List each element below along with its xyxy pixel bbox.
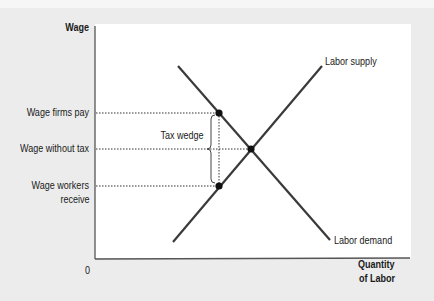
tick-wage-without-tax-text: Wage without tax <box>20 142 89 154</box>
tick-wage-firms-pay-text: Wage firms pay <box>27 106 89 118</box>
labor-demand-label: Labor demand <box>334 234 392 246</box>
tick-wage-workers-receive-line1: Wage workers <box>32 179 89 191</box>
labor-supply-label: Labor supply <box>325 55 377 67</box>
tax-wedge-label: Tax wedge <box>161 129 204 141</box>
y-axis-title-text: Wage <box>65 21 89 33</box>
x-axis-title-line2: of Labor <box>359 272 395 284</box>
tick-wage-workers-receive-line2: receive <box>60 193 89 205</box>
workers-receive-point <box>215 182 222 189</box>
origin-label: 0 <box>85 264 90 276</box>
x-axis-title-line1: Quantity <box>358 258 395 270</box>
equilibrium-point <box>247 145 254 152</box>
firms-pay-point <box>215 109 222 116</box>
